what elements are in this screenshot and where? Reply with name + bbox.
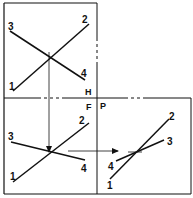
label-2: 2: [79, 115, 85, 126]
label-1: 1: [10, 171, 16, 182]
profile-view: P 2 3 4 1: [100, 101, 175, 191]
label-3: 3: [8, 131, 14, 142]
view-label-p: P: [100, 101, 106, 111]
label-1: 1: [9, 81, 15, 92]
label-3: 3: [167, 136, 173, 147]
horizontal-view: 3 2 1 4 H: [8, 14, 92, 97]
orthographic-projection-diagram: 3 2 1 4 H 3 2 1 4 F P 2 3 4 1: [0, 0, 193, 198]
view-frames: [4, 3, 191, 194]
line-3-4: [116, 140, 164, 161]
label-4: 4: [81, 68, 87, 79]
label-1: 1: [107, 180, 113, 191]
label-2: 2: [169, 111, 175, 122]
diagram-canvas: 3 2 1 4 H 3 2 1 4 F P 2 3 4 1: [0, 0, 193, 198]
label-3: 3: [8, 21, 14, 32]
view-label-h: H: [85, 87, 92, 97]
frontal-view: 3 2 1 4 F: [8, 102, 92, 182]
label-4: 4: [108, 161, 114, 172]
view-label-f: F: [86, 102, 92, 112]
label-2: 2: [82, 14, 88, 25]
line-1-2: [110, 119, 169, 179]
arrowhead-right-icon: [112, 148, 119, 154]
label-4: 4: [81, 163, 87, 174]
